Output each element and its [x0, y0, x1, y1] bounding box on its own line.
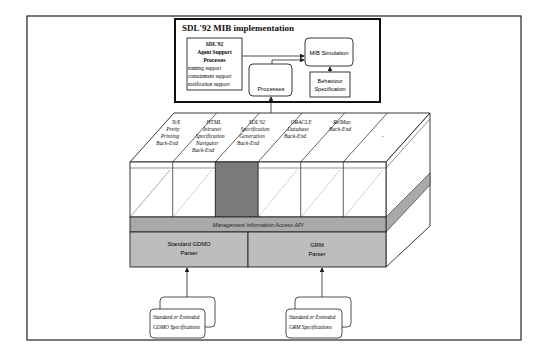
behaviour-spec-line1: Behaviour	[318, 78, 343, 84]
gdmo-parser-line1: Standard GDMO	[167, 241, 211, 247]
agent-support-box: SDL'92 Agent Support Processes naming su…	[187, 38, 242, 90]
agent-support-item-notification: notification support	[188, 81, 230, 87]
mib-simulation-box: MIB Simulation	[305, 38, 353, 66]
backend-empty: -	[382, 133, 384, 139]
svg-text:Back-End: Back-End	[237, 140, 259, 146]
gdmo-parser-line2: Parser	[180, 250, 197, 256]
grm-spec-line2: GRM Specifications	[289, 324, 332, 330]
architecture-diagram: SDL'92 MIB implementation SDL'92 Agent S…	[0, 0, 549, 362]
agent-support-item-naming: naming support	[188, 65, 222, 71]
svg-text:SDL'92: SDL'92	[249, 119, 266, 125]
gdmo-spec-line2: GDMO Specifications	[153, 324, 200, 330]
gdmo-specifications-doc: Standard or Extended GDMO Specifications	[150, 297, 215, 338]
mib-simulation-label: MIB Simulation	[310, 50, 349, 56]
grm-spec-line1: Standard or Extended	[289, 314, 336, 320]
svg-text:Specification: Specification	[195, 133, 224, 139]
agent-support-line3: Processes	[203, 57, 225, 63]
svg-text:Navigator: Navigator	[195, 140, 220, 146]
svg-text:HTML: HTML	[206, 119, 222, 125]
grm-specifications-doc: Standard or Extended GRM Specifications	[286, 297, 351, 338]
svg-text:ORACLE: ORACLE	[290, 119, 312, 125]
svg-text:Back-End: Back-End	[192, 147, 214, 153]
gdmo-spec-line1: Standard or Extended	[153, 314, 200, 320]
svg-text:Specification: Specification	[240, 126, 269, 132]
svg-text:TeX: TeX	[172, 119, 181, 125]
svg-text:Back-End: Back-End	[284, 133, 306, 139]
grm-parser	[248, 232, 386, 267]
api-band-label: Management Information Access API	[213, 222, 304, 228]
mib-box-title: SDL'92 MIB implementation	[182, 23, 294, 33]
behaviour-spec-line2: Specification	[314, 86, 345, 92]
agent-support-line2: Agent Support	[197, 49, 232, 55]
svg-text:RelMan: RelMan	[332, 119, 351, 125]
agent-support-line1: SDL'92	[206, 41, 224, 47]
svg-text:Printing: Printing	[160, 133, 180, 139]
svg-text:Pretty: Pretty	[165, 126, 180, 132]
svg-text:Generation: Generation	[239, 133, 265, 139]
svg-text:Database: Database	[286, 126, 309, 132]
svg-text:Back-End: Back-End	[329, 126, 351, 132]
mib-implementation-box: SDL'92 MIB implementation SDL'92 Agent S…	[175, 19, 380, 102]
grm-parser-line2: Parser	[308, 251, 325, 257]
svg-text:Back-End: Back-End	[156, 140, 178, 146]
sdl-backend-column-highlight	[215, 162, 258, 217]
svg-text:Intranet: Intranet	[202, 126, 221, 132]
processes-label: Processes	[257, 86, 284, 92]
grm-parser-line1: GRM	[310, 242, 324, 248]
processes-box: Processes	[249, 64, 292, 96]
svg-text:-: -	[382, 133, 384, 139]
agent-support-item-containment: containment support	[188, 73, 232, 79]
backend-relman: RelMan Back-End	[329, 119, 351, 132]
behaviour-specification-box: Behaviour Specification	[310, 72, 350, 97]
